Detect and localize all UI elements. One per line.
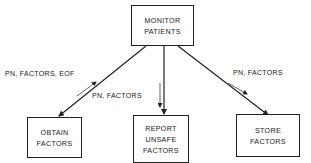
node-label-line: REPORT bbox=[145, 123, 177, 134]
flow-label-report: PN, FACTORS bbox=[92, 92, 142, 99]
node-report-unsafe-factors: REPORT UNSAFE FACTORS bbox=[133, 115, 189, 163]
node-label-line: FACTORS bbox=[37, 138, 73, 149]
node-label-line: STORE bbox=[255, 125, 281, 136]
node-label-line: OBTAIN bbox=[40, 127, 68, 138]
node-monitor-patients: MONITOR PATIENTS bbox=[131, 5, 194, 46]
node-label-line: MONITOR bbox=[145, 15, 181, 26]
flow-label-obtain: PN, FACTORS, EOF bbox=[5, 70, 75, 77]
node-label-line: FACTORS bbox=[250, 136, 286, 147]
node-label-line: UNSAFE bbox=[146, 134, 177, 145]
call-line-store bbox=[178, 46, 268, 115]
node-obtain-factors: OBTAIN FACTORS bbox=[27, 117, 82, 158]
node-label-line: PATIENTS bbox=[144, 26, 180, 37]
node-store-factors: STORE FACTORS bbox=[236, 114, 300, 157]
flow-label-store: PN, FACTORS bbox=[233, 69, 283, 76]
call-line-obtain bbox=[59, 46, 146, 116]
node-label-line: FACTORS bbox=[143, 145, 179, 156]
